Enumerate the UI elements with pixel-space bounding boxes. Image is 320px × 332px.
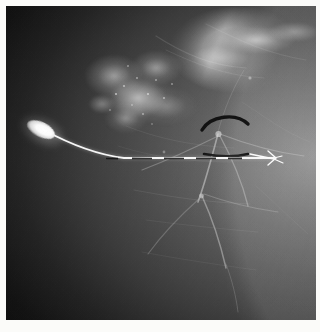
film-grain-secondary xyxy=(6,6,316,320)
frame-margin-bottom xyxy=(0,320,320,332)
frame-margin-top xyxy=(0,0,320,6)
frame-margin-right xyxy=(316,0,320,332)
frame-margin-left xyxy=(0,0,6,332)
radiograph-plate xyxy=(6,6,316,320)
mammogram-image-viewer xyxy=(0,0,320,332)
